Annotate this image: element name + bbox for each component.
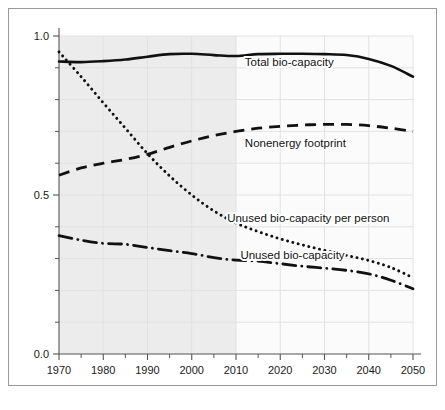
x-tick-label-0: 1970 xyxy=(47,364,71,376)
x-tick-label-6: 2030 xyxy=(312,364,336,376)
x-tick-label-3: 2000 xyxy=(180,364,204,376)
x-tick-label-5: 2020 xyxy=(268,364,292,376)
y-tick-label-0: 0.0 xyxy=(34,348,49,360)
series-label-1: Nonenergy footprint xyxy=(245,137,347,149)
x-tick-label-8: 2050 xyxy=(401,364,425,376)
y-axis-tick-labels: 0.00.51.0 xyxy=(34,30,49,360)
series-label-0: Total bio-capacity xyxy=(245,56,334,68)
line-chart: 197019801990200020102020203020402050 0.0… xyxy=(9,9,436,385)
series-label-2: Unused bio-capacity per person xyxy=(227,212,389,224)
x-tick-label-7: 2040 xyxy=(357,364,381,376)
x-axis-tick-labels: 197019801990200020102020203020402050 xyxy=(47,364,425,376)
x-tick-label-2: 1990 xyxy=(135,364,159,376)
chart-figure: 197019801990200020102020203020402050 0.0… xyxy=(0,0,445,410)
series-label-3: Unused bio-capacity xyxy=(240,249,344,261)
y-tick-label-2: 1.0 xyxy=(34,30,49,42)
x-tick-label-1: 1980 xyxy=(91,364,115,376)
x-tick-label-4: 2010 xyxy=(224,364,248,376)
chart-frame: 197019801990200020102020203020402050 0.0… xyxy=(8,8,437,386)
y-tick-label-1: 0.5 xyxy=(34,189,49,201)
